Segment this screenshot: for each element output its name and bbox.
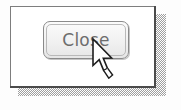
- dialog-body: Close: [11, 7, 155, 87]
- close-button-label: Close: [62, 32, 109, 49]
- close-button[interactable]: Close: [43, 21, 129, 59]
- screenshot-root: Close: [0, 0, 181, 110]
- close-dialog[interactable]: Close: [10, 6, 156, 88]
- close-button-face: Close: [46, 24, 126, 56]
